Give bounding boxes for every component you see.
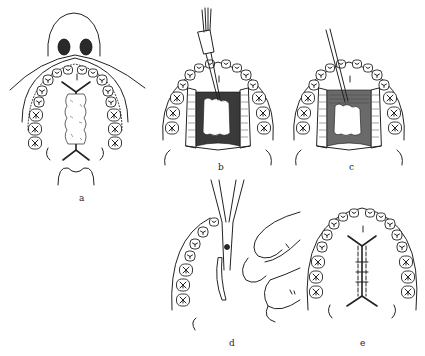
panel-label-e: e [360,338,365,348]
panel-b-drawing [163,8,274,165]
panel-label-b: b [218,162,224,172]
panel-d-drawing [172,180,300,330]
panel-a-drawing [10,13,145,185]
nose-outline [48,13,101,56]
panel-label-d: d [229,338,235,348]
figure-canvas: a b c d e [0,0,425,356]
panel-label-c: c [349,162,354,172]
panel-label-a: a [79,193,84,203]
illustration [0,0,425,356]
nostril-right [80,39,92,55]
nostril-left [58,39,70,55]
panel-e-drawing [307,208,417,318]
panel-c-drawing [294,29,405,165]
